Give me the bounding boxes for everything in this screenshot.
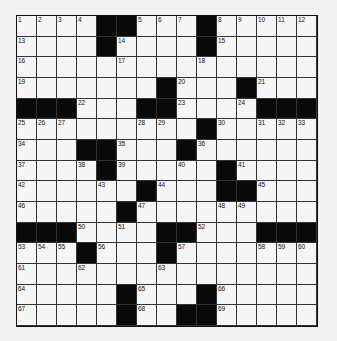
grid-cell[interactable]: [137, 243, 157, 264]
grid-cell[interactable]: 54: [37, 243, 57, 264]
grid-cell[interactable]: 47: [137, 202, 157, 223]
grid-cell[interactable]: 6: [157, 16, 177, 37]
grid-cell[interactable]: 1: [17, 16, 37, 37]
grid-cell[interactable]: [57, 161, 77, 182]
grid-cell[interactable]: [297, 140, 317, 161]
grid-cell[interactable]: [97, 57, 117, 78]
grid-cell[interactable]: [157, 305, 177, 326]
grid-cell[interactable]: [57, 140, 77, 161]
grid-cell[interactable]: [97, 99, 117, 120]
grid-cell[interactable]: [197, 243, 217, 264]
grid-cell[interactable]: 16: [17, 57, 37, 78]
grid-cell[interactable]: [297, 37, 317, 58]
grid-cell[interactable]: 41: [237, 161, 257, 182]
grid-cell[interactable]: [197, 161, 217, 182]
grid-cell[interactable]: [277, 78, 297, 99]
grid-cell[interactable]: [137, 37, 157, 58]
grid-cell[interactable]: [137, 140, 157, 161]
grid-cell[interactable]: [257, 285, 277, 306]
grid-cell[interactable]: 38: [77, 161, 97, 182]
grid-cell[interactable]: 62: [77, 264, 97, 285]
grid-cell[interactable]: [297, 202, 317, 223]
grid-cell[interactable]: 56: [97, 243, 117, 264]
grid-cell[interactable]: 12: [297, 16, 317, 37]
grid-cell[interactable]: [297, 57, 317, 78]
grid-cell[interactable]: [277, 285, 297, 306]
grid-cell[interactable]: 30: [217, 119, 237, 140]
grid-cell[interactable]: [157, 140, 177, 161]
grid-cell[interactable]: 4: [77, 16, 97, 37]
grid-cell[interactable]: 37: [17, 161, 37, 182]
grid-cell[interactable]: 42: [17, 181, 37, 202]
grid-cell[interactable]: [197, 78, 217, 99]
grid-cell[interactable]: [37, 140, 57, 161]
grid-cell[interactable]: 28: [137, 119, 157, 140]
grid-cell[interactable]: [297, 264, 317, 285]
grid-cell[interactable]: 36: [197, 140, 217, 161]
grid-cell[interactable]: [257, 57, 277, 78]
grid-cell[interactable]: 59: [277, 243, 297, 264]
grid-cell[interactable]: [97, 202, 117, 223]
grid-cell[interactable]: [217, 264, 237, 285]
grid-cell[interactable]: 26: [37, 119, 57, 140]
grid-cell[interactable]: [37, 305, 57, 326]
grid-cell[interactable]: [77, 305, 97, 326]
grid-cell[interactable]: [257, 264, 277, 285]
grid-cell[interactable]: [57, 78, 77, 99]
grid-cell[interactable]: [37, 202, 57, 223]
grid-cell[interactable]: [97, 78, 117, 99]
grid-cell[interactable]: 2: [37, 16, 57, 37]
grid-cell[interactable]: [177, 264, 197, 285]
grid-cell[interactable]: 10: [257, 16, 277, 37]
grid-cell[interactable]: 40: [177, 161, 197, 182]
grid-cell[interactable]: 52: [197, 223, 217, 244]
grid-cell[interactable]: [177, 119, 197, 140]
grid-cell[interactable]: [177, 37, 197, 58]
grid-cell[interactable]: [37, 37, 57, 58]
grid-cell[interactable]: 23: [177, 99, 197, 120]
grid-cell[interactable]: 46: [17, 202, 37, 223]
grid-cell[interactable]: [237, 119, 257, 140]
grid-cell[interactable]: [237, 305, 257, 326]
grid-cell[interactable]: 61: [17, 264, 37, 285]
grid-cell[interactable]: [97, 264, 117, 285]
grid-cell[interactable]: 3: [57, 16, 77, 37]
grid-cell[interactable]: [217, 223, 237, 244]
grid-cell[interactable]: 69: [217, 305, 237, 326]
grid-cell[interactable]: 29: [157, 119, 177, 140]
grid-cell[interactable]: [77, 37, 97, 58]
grid-cell[interactable]: [117, 243, 137, 264]
grid-cell[interactable]: [197, 99, 217, 120]
grid-cell[interactable]: [137, 57, 157, 78]
grid-cell[interactable]: 60: [297, 243, 317, 264]
grid-cell[interactable]: [177, 285, 197, 306]
grid-cell[interactable]: [257, 140, 277, 161]
grid-cell[interactable]: [77, 57, 97, 78]
grid-cell[interactable]: 65: [137, 285, 157, 306]
grid-cell[interactable]: [257, 202, 277, 223]
grid-cell[interactable]: 64: [17, 285, 37, 306]
grid-cell[interactable]: [277, 202, 297, 223]
grid-cell[interactable]: 45: [257, 181, 277, 202]
grid-cell[interactable]: 11: [277, 16, 297, 37]
grid-cell[interactable]: [297, 181, 317, 202]
grid-cell[interactable]: [277, 264, 297, 285]
grid-cell[interactable]: [77, 181, 97, 202]
grid-cell[interactable]: [157, 57, 177, 78]
grid-cell[interactable]: [257, 161, 277, 182]
grid-cell[interactable]: 8: [217, 16, 237, 37]
grid-cell[interactable]: [237, 285, 257, 306]
grid-cell[interactable]: [217, 57, 237, 78]
grid-cell[interactable]: 5: [137, 16, 157, 37]
grid-cell[interactable]: [37, 285, 57, 306]
grid-cell[interactable]: [37, 181, 57, 202]
grid-cell[interactable]: [97, 285, 117, 306]
grid-cell[interactable]: [177, 202, 197, 223]
grid-cell[interactable]: 49: [237, 202, 257, 223]
grid-cell[interactable]: [77, 78, 97, 99]
grid-cell[interactable]: [237, 223, 257, 244]
grid-cell[interactable]: [237, 37, 257, 58]
grid-cell[interactable]: 18: [197, 57, 217, 78]
grid-cell[interactable]: [297, 78, 317, 99]
grid-cell[interactable]: [37, 264, 57, 285]
